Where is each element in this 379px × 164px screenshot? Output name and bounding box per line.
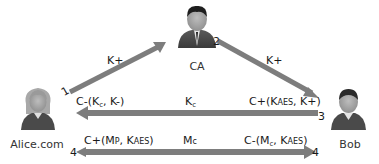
bob-avatar-icon xyxy=(331,89,366,130)
bob-label: Bob xyxy=(335,139,365,151)
arrow-alice-to-ca xyxy=(70,42,166,92)
alice-encrypt-label-step4: C+(MP, KAES) xyxy=(84,135,154,148)
bob-encrypt-label-step3: C+(KAES, K+) xyxy=(249,96,321,109)
ca-label: CA xyxy=(183,61,211,73)
alice-avatar-icon xyxy=(21,88,55,130)
step-number-4-left: 4 xyxy=(70,147,77,159)
edge-label-bob-to-alice: Kc xyxy=(185,96,196,109)
alice-label: Alice.com xyxy=(8,139,66,151)
step-number-2: 2 xyxy=(213,36,220,48)
edge-label-alice-to-bob: Mc xyxy=(183,135,197,148)
edge-label-alice-to-ca: K+ xyxy=(107,55,123,67)
ca-avatar-icon xyxy=(178,6,216,48)
step-number-3: 3 xyxy=(318,111,325,123)
edge-label-ca-to-bob: K+ xyxy=(266,55,282,67)
step-number-4-right: 4 xyxy=(312,147,319,159)
arrow-ca-to-bob xyxy=(218,41,319,98)
alice-decrypt-label-step3: C-(Kc, K-) xyxy=(76,96,124,109)
bob-decrypt-label-step4: C-(Mc, KAES) xyxy=(244,135,307,148)
